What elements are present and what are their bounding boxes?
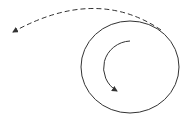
outer-circle (81, 21, 179, 113)
dashed-tangent-arrow (13, 8, 161, 32)
diagram-canvas (0, 0, 189, 122)
inner-rotation-arrow (104, 41, 130, 91)
